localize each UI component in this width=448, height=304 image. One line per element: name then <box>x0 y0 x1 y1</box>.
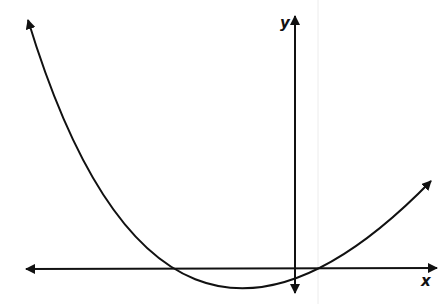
x-axis <box>26 268 437 269</box>
parabola-curve <box>28 20 431 288</box>
y-axis-label: y <box>280 14 290 32</box>
x-axis-label: x <box>421 272 431 290</box>
graph-canvas <box>0 0 448 304</box>
